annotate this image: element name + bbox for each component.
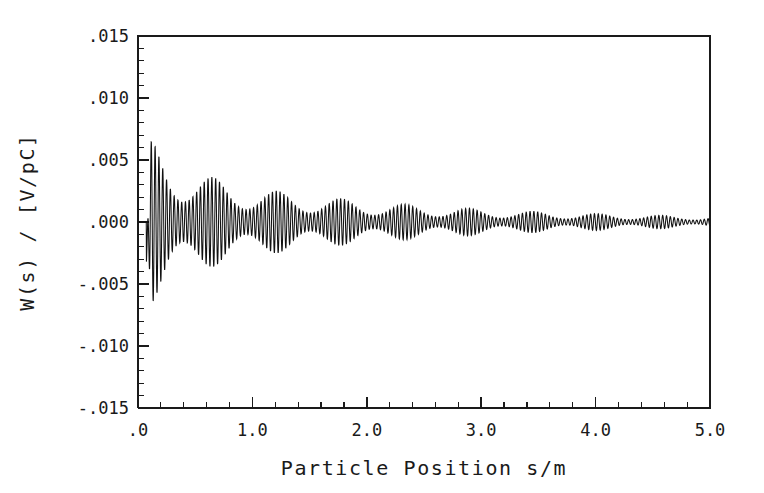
x-tick-label: 2.0 <box>351 420 382 440</box>
x-tick-label: 4.0 <box>580 420 611 440</box>
x-axis-tick-labels: .01.02.03.04.05.0 <box>128 420 726 440</box>
wakefield-plot-figure: .015.010.005.000-.005-.010-.015 .01.02.0… <box>0 0 764 493</box>
y-tick-label: .000 <box>88 212 129 232</box>
x-axis-major-ticks <box>138 397 710 408</box>
x-axis-minor-ticks <box>161 402 687 408</box>
y-tick-label: -.010 <box>78 336 129 356</box>
y-tick-label: -.015 <box>78 398 129 418</box>
x-tick-label: 1.0 <box>237 420 268 440</box>
y-tick-label: -.005 <box>78 274 129 294</box>
y-axis-tick-labels: .015.010.005.000-.005-.010-.015 <box>78 26 129 418</box>
x-tick-label: .0 <box>128 420 148 440</box>
data-series-group <box>138 142 710 300</box>
wake-potential-curve <box>138 142 710 300</box>
x-tick-label: 3.0 <box>466 420 497 440</box>
x-axis-title: Particle Position s/m <box>281 456 567 480</box>
y-tick-label: .005 <box>88 150 129 170</box>
y-tick-label: .010 <box>88 88 129 108</box>
y-tick-label: .015 <box>88 26 129 46</box>
x-tick-label: 5.0 <box>695 420 726 440</box>
plot-canvas: .015.010.005.000-.005-.010-.015 .01.02.0… <box>0 0 764 493</box>
y-axis-title: W(s) / [V/pC] <box>15 133 39 310</box>
